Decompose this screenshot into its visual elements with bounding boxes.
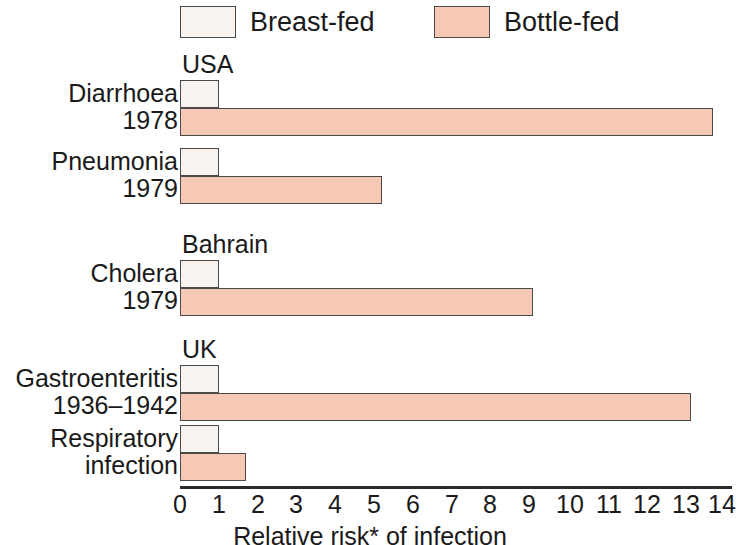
category-label-line2: 1979 (0, 175, 178, 202)
x-tick-8: 8 (483, 492, 497, 517)
x-tick-11: 11 (596, 492, 622, 517)
legend-label-bottle-fed: Bottle-fed (504, 9, 620, 36)
category-respiratory-infection: Respiratory infection (0, 425, 740, 481)
x-axis-line (180, 486, 732, 489)
category-label-line1: Diarrhoea (68, 79, 178, 107)
category-gastroenteritis-1936-1942: Gastroenteritis 1936–1942 (0, 365, 740, 421)
bar-breast-fed-gastroenteritis-1936-1942 (180, 365, 219, 393)
legend-label-breast-fed: Breast-fed (250, 9, 375, 36)
x-axis-title: Relative risk* of infection (0, 524, 740, 545)
category-label-line1: Pneumonia (52, 147, 178, 175)
x-tick-3: 3 (289, 492, 303, 517)
category-label-line1: Respiratory (50, 424, 178, 452)
x-tick-14: 14 (708, 492, 736, 517)
x-tick-4: 4 (328, 492, 342, 517)
bar-bottle-fed-cholera-1979 (180, 288, 533, 316)
x-tick-0: 0 (173, 492, 187, 517)
group-header-usa: USA (182, 52, 233, 77)
category-label-line2: 1978 (0, 107, 178, 134)
x-tick-12: 12 (633, 492, 661, 517)
category-label-pneumonia-1979: Pneumonia 1979 (0, 148, 178, 202)
x-tick-5: 5 (367, 492, 381, 517)
category-label-line2: 1979 (0, 287, 178, 314)
bar-breast-fed-diarrhoea-1978 (180, 80, 219, 108)
category-diarrhoea-1978: Diarrhoea 1978 (0, 80, 740, 136)
category-label-cholera-1979: Cholera 1979 (0, 260, 178, 314)
chart-legend: Breast-fed Bottle-fed (0, 0, 740, 52)
x-tick-13: 13 (672, 492, 700, 517)
x-tick-2: 2 (251, 492, 265, 517)
x-tick-9: 9 (522, 492, 536, 517)
group-header-uk: UK (182, 337, 217, 362)
category-label-line1: Cholera (90, 259, 178, 287)
category-label-line2: infection (0, 452, 178, 479)
group-header-bahrain: Bahrain (182, 232, 268, 257)
category-label-line2: 1936–1942 (0, 392, 178, 419)
bar-bottle-fed-gastroenteritis-1936-1942 (180, 393, 691, 421)
category-label-respiratory-infection: Respiratory infection (0, 425, 178, 479)
category-label-gastroenteritis-1936-1942: Gastroenteritis 1936–1942 (0, 365, 178, 419)
bar-breast-fed-cholera-1979 (180, 260, 219, 288)
legend-swatch-breast-fed (180, 6, 236, 38)
bar-breast-fed-pneumonia-1979 (180, 148, 219, 176)
category-pneumonia-1979: Pneumonia 1979 (0, 148, 740, 204)
legend-swatch-bottle-fed (434, 6, 490, 38)
category-label-line1: Gastroenteritis (15, 364, 178, 392)
category-label-diarrhoea-1978: Diarrhoea 1978 (0, 80, 178, 134)
x-tick-10: 10 (556, 492, 584, 517)
bar-bottle-fed-diarrhoea-1978 (180, 108, 713, 136)
x-tick-7: 7 (445, 492, 459, 517)
x-axis-tick-labels: 0 1 2 3 4 5 6 7 8 9 10 11 12 13 14 (0, 492, 740, 524)
bar-bottle-fed-pneumonia-1979 (180, 176, 382, 204)
x-tick-1: 1 (212, 492, 226, 517)
bar-bottle-fed-respiratory-infection (180, 453, 246, 481)
legend-item-bottle-fed: Bottle-fed (434, 6, 620, 38)
category-cholera-1979: Cholera 1979 (0, 260, 740, 316)
legend-item-breast-fed: Breast-fed (180, 6, 375, 38)
plot-area: USA Diarrhoea 1978 Pneumonia 1979 (0, 52, 740, 545)
relative-risk-bar-chart: Breast-fed Bottle-fed USA Diarrhoea 1978 (0, 0, 740, 545)
bar-breast-fed-respiratory-infection (180, 425, 219, 453)
x-tick-6: 6 (406, 492, 420, 517)
